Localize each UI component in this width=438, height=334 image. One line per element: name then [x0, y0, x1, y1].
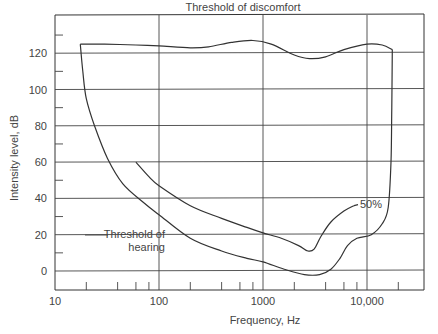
y-gridline — [55, 89, 424, 90]
x-tick-label: 100 — [150, 295, 168, 307]
annotation-50-percent: 50% — [360, 198, 382, 210]
axis-ticks — [55, 35, 398, 290]
annotation-threshold-of-discomfort: Threshold of discomfort — [186, 1, 301, 13]
y-gridline — [55, 270, 424, 271]
x-tick-label: 1000 — [251, 295, 275, 307]
curve-50 — [136, 162, 354, 251]
annotation-threshold-of-hearing-line2: hearing — [128, 241, 165, 253]
top-border-line — [55, 14, 424, 15]
y-gridline — [55, 125, 424, 126]
curves — [80, 40, 392, 275]
curve-threshold-of-hearing — [80, 44, 392, 275]
y-tick-label: 60 — [35, 156, 47, 168]
x-tick-label: 10,000 — [350, 295, 384, 307]
x-tick-label: 10 — [49, 295, 61, 307]
grid — [55, 14, 424, 290]
y-axis-title: Intensity level, dB — [8, 115, 20, 201]
y-tick-label: 40 — [35, 192, 47, 204]
y-gridline — [55, 52, 424, 53]
fifty-percent-leader-line — [354, 205, 358, 206]
y-tick-label: 0 — [41, 265, 47, 277]
y-tick-label: 100 — [29, 84, 47, 96]
curve-threshold-of-discomfort — [80, 40, 392, 58]
labels: 02040608010012010100100010,000 — [29, 47, 384, 307]
hearing-threshold-chart: 02040608010012010100100010,000 Frequency… — [0, 0, 438, 334]
y-gridline — [55, 161, 424, 162]
y-tick-label: 80 — [35, 120, 47, 132]
x-axis-title: Frequency, Hz — [230, 314, 301, 326]
y-tick-label: 20 — [35, 229, 47, 241]
y-tick-label: 120 — [29, 47, 47, 59]
annotation-threshold-of-hearing-line1: Threshold of — [104, 228, 166, 240]
